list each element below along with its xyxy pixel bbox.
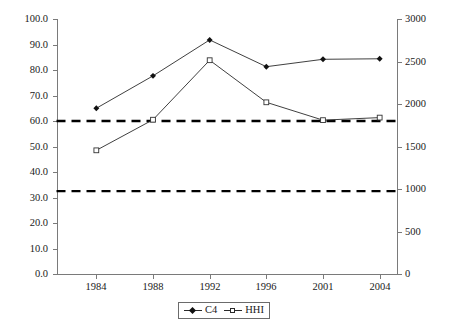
data-point-marker-c4 xyxy=(150,73,156,79)
data-point-marker-hhi xyxy=(321,118,326,123)
data-point-marker-hhi xyxy=(151,117,156,122)
y-axis-right-tick-label: 500 xyxy=(405,227,421,237)
series-layer xyxy=(57,19,397,274)
y-axis-right-tick-label: 1000 xyxy=(405,184,426,194)
x-axis-tick xyxy=(266,275,267,279)
x-axis-tick xyxy=(153,275,154,279)
y-axis-right-tick-label: 1500 xyxy=(405,142,426,152)
filled-diamond-marker-icon xyxy=(184,306,202,315)
y-axis-right-tick xyxy=(398,189,402,190)
data-point-marker-hhi xyxy=(377,115,382,120)
y-axis-right-tick xyxy=(398,19,402,20)
plot-area xyxy=(57,19,397,274)
open-square-marker-icon xyxy=(224,306,242,315)
y-axis-right-tick-label: 2000 xyxy=(405,99,426,109)
data-point-marker-hhi xyxy=(94,148,99,153)
data-point-marker-c4 xyxy=(377,56,383,62)
series-line-c4 xyxy=(96,40,379,108)
x-axis-tick-label: 1988 xyxy=(123,281,183,292)
legend-item-c4: C4 xyxy=(184,304,217,316)
y-axis-right-tick xyxy=(398,147,402,148)
y-axis-left-tick-label: 60.0 xyxy=(30,116,48,126)
y-axis-right-tick-label: 2500 xyxy=(405,57,426,67)
y-axis-right-tick-label: 0 xyxy=(405,269,410,279)
data-point-marker-hhi xyxy=(207,58,212,63)
y-axis-right-tick xyxy=(398,274,402,275)
y-axis-right-tick xyxy=(398,62,402,63)
y-axis-left-tick-label: 10.0 xyxy=(30,244,48,254)
x-axis-tick xyxy=(380,275,381,279)
data-point-marker-c4 xyxy=(207,37,213,43)
y-axis-left-tick-label: 80.0 xyxy=(30,65,48,75)
x-axis-line xyxy=(57,274,398,275)
x-axis-tick-label: 1996 xyxy=(236,281,296,292)
y-axis-left-tick-label: 50.0 xyxy=(30,142,48,152)
y-axis-left-tick xyxy=(53,274,57,275)
chart-legend: C4 HHI xyxy=(178,302,270,319)
data-point-marker-hhi xyxy=(264,100,269,105)
y-axis-left-tick-label: 40.0 xyxy=(30,167,48,177)
x-axis-tick-label: 2004 xyxy=(350,281,410,292)
data-point-marker-c4 xyxy=(93,105,99,111)
x-axis-tick xyxy=(210,275,211,279)
y-axis-left-tick-label: 20.0 xyxy=(30,218,48,228)
y-axis-right-tick xyxy=(398,232,402,233)
x-axis-tick-label: 1984 xyxy=(66,281,126,292)
data-point-marker-c4 xyxy=(263,64,269,70)
legend-item-hhi: HHI xyxy=(224,304,264,316)
y-axis-right-tick xyxy=(398,104,402,105)
y-axis-left-tick-label: 100.0 xyxy=(24,14,48,24)
y-axis-left-tick-label: 70.0 xyxy=(30,91,48,101)
x-axis-tick xyxy=(96,275,97,279)
y-axis-left-tick-label: 90.0 xyxy=(30,40,48,50)
data-point-marker-c4 xyxy=(320,56,326,62)
y-axis-right-tick-label: 3000 xyxy=(405,14,426,24)
legend-label-hhi: HHI xyxy=(244,304,264,316)
y-axis-left-tick-label: 0.0 xyxy=(35,269,48,279)
chart-container: 0.010.020.030.040.050.060.070.080.090.01… xyxy=(0,0,457,330)
y-axis-left-tick-label: 30.0 xyxy=(30,193,48,203)
x-axis-tick-label: 2001 xyxy=(293,281,353,292)
x-axis-tick xyxy=(323,275,324,279)
legend-label-c4: C4 xyxy=(204,304,217,316)
series-line-hhi xyxy=(96,60,379,150)
x-axis-tick-label: 1992 xyxy=(180,281,240,292)
